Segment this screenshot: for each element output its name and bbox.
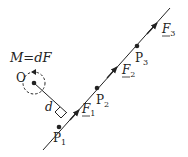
point-p2-label: P2 — [96, 93, 109, 109]
point-o-dot — [32, 81, 37, 86]
point-o-label: O — [16, 71, 26, 85]
force-arrow-f3 — [147, 23, 157, 34]
point-p1-label: P1 — [53, 131, 66, 147]
distance-d-label: d — [45, 100, 53, 114]
force-arrow-f1 — [70, 110, 79, 120]
force-arrow-f2 — [107, 67, 117, 78]
force-label-f1: F1 — [81, 102, 95, 118]
point-p2-dot — [95, 86, 100, 91]
moment-diagram: M=dF O d P1 P2 P3 F1 F2 F3 — [0, 0, 188, 157]
right-angle-marker — [55, 107, 66, 118]
point-p3-label: P3 — [135, 51, 148, 67]
point-p1-dot — [57, 125, 62, 130]
force-label-f3: F3 — [161, 22, 175, 38]
point-p3-dot — [135, 44, 140, 49]
rotation-arrow-icon — [31, 69, 36, 75]
moment-equation: M=dF — [9, 50, 53, 65]
force-label-f2: F2 — [121, 63, 135, 79]
